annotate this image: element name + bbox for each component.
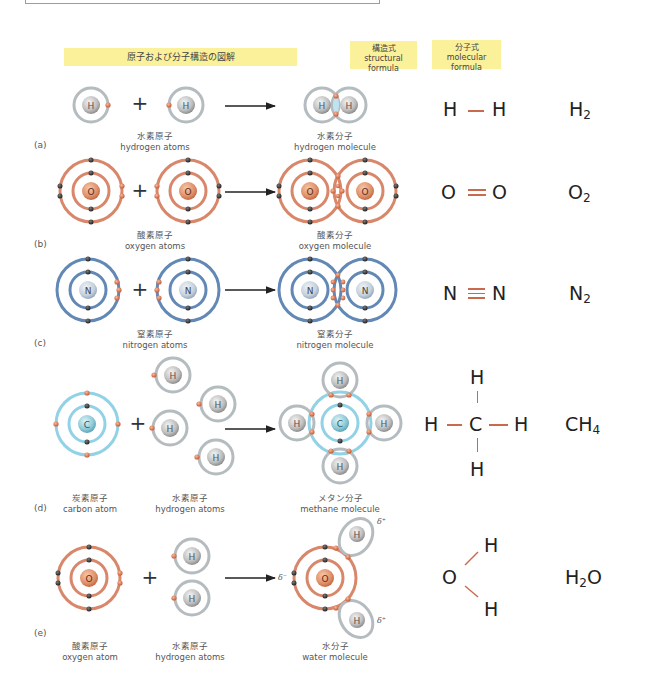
carbon-atom: C xyxy=(53,390,120,457)
hydrogen-molecule: H H xyxy=(305,88,366,122)
svg-text:N: N xyxy=(362,286,369,296)
molecular-formula-h2o: H2O xyxy=(565,566,602,590)
water-molecule: O H H xyxy=(292,512,380,644)
nitrogen-molecule: N N xyxy=(279,257,396,324)
caption-nitrogen-atoms: 窒素原子 nitrogen atoms xyxy=(100,329,210,350)
svg-text:H: H xyxy=(183,101,190,111)
methane-molecule: C H H H H xyxy=(280,363,401,483)
double-bond-line-1 xyxy=(468,189,486,191)
oxygen-atom-right: O xyxy=(154,158,221,225)
svg-text:H: H xyxy=(337,376,344,386)
svg-text:N: N xyxy=(85,286,92,296)
row-label-b: (b) xyxy=(34,239,47,249)
svg-text:O: O xyxy=(87,187,94,197)
bond-up xyxy=(477,391,479,403)
hydrogen-atoms-pair: H H xyxy=(171,539,209,615)
row-c-nitrogen: N + N N N xyxy=(57,257,396,324)
svg-text:N: N xyxy=(307,286,314,296)
row-e-water: O + H H O H H xyxy=(56,512,380,644)
svg-text:H: H xyxy=(88,101,95,111)
plus-sign: + xyxy=(132,91,149,115)
plus-sign: + xyxy=(130,411,147,435)
partial-charge-oxygen: δ⁻ xyxy=(278,573,287,582)
molecular-formula-o2: O2 xyxy=(568,181,591,205)
partial-charge-hydrogen-bottom: δ⁺ xyxy=(377,616,386,625)
triple-bond-line-3 xyxy=(468,297,485,299)
svg-text:C: C xyxy=(84,420,90,430)
svg-text:O: O xyxy=(321,574,328,584)
svg-text:H: H xyxy=(337,462,344,472)
svg-text:H: H xyxy=(215,400,222,410)
row-d-methane: C + H H H H xyxy=(53,358,401,483)
caption-oxygen-atoms: 酸素原子 oxygen atoms xyxy=(100,230,210,251)
molecular-formula-h2: H2 xyxy=(569,98,591,122)
caption-carbon-atom: 炭素原子 carbon atom xyxy=(55,493,125,514)
double-bond-line-2 xyxy=(468,194,486,196)
caption-hydrogen-atoms: 水素原子 hydrogen atoms xyxy=(100,131,210,152)
row-label-e: (e) xyxy=(34,628,47,638)
nitrogen-atom-left: N xyxy=(57,257,122,324)
svg-text:O: O xyxy=(85,574,92,584)
row-label-c: (c) xyxy=(34,338,46,348)
hydrogen-atom-right: H xyxy=(166,88,203,122)
svg-text:H: H xyxy=(167,424,174,434)
row-label-a: (a) xyxy=(34,140,47,150)
bond-left xyxy=(447,424,462,426)
water-bonds xyxy=(460,550,490,600)
triple-bond-line-1 xyxy=(468,288,485,290)
caption-oxygen-atom: 酸素原子 oxygen atom xyxy=(55,641,125,662)
hydrogen-atoms-group: H H H H xyxy=(149,358,235,474)
svg-text:O: O xyxy=(306,187,313,197)
caption-methane-molecule: メタン分子 methane molecule xyxy=(290,493,390,514)
bond-down xyxy=(477,438,479,452)
triple-bond-line-2 xyxy=(468,293,485,295)
svg-text:H: H xyxy=(381,419,388,429)
caption-oxygen-molecule: 酸素分子 oxygen molecule xyxy=(285,230,385,251)
plus-sign: + xyxy=(142,565,159,589)
svg-text:H: H xyxy=(346,101,353,111)
molecular-formula-n2: N2 xyxy=(569,282,591,306)
caption-water-molecule: 水分子 water molecule xyxy=(290,641,380,662)
svg-text:H: H xyxy=(294,419,301,429)
caption-hydrogen-atoms-e: 水素原子 hydrogen atoms xyxy=(145,641,235,662)
caption-hydrogen-atoms-d: 水素原子 hydrogen atoms xyxy=(145,493,235,514)
caption-nitrogen-molecule: 窒素分子 nitrogen molecule xyxy=(285,329,385,350)
svg-text:H: H xyxy=(354,616,361,626)
row-a-hydrogen: H + H H H xyxy=(74,88,366,122)
single-bond xyxy=(468,110,484,112)
oxygen-atom-left: O xyxy=(58,158,125,225)
svg-text:H: H xyxy=(189,594,196,604)
svg-text:H: H xyxy=(213,453,220,463)
oxygen-atom: O xyxy=(56,545,123,612)
svg-text:H: H xyxy=(170,371,177,381)
svg-text:H: H xyxy=(189,552,196,562)
row-label-d: (d) xyxy=(34,503,47,513)
svg-text:N: N xyxy=(185,286,192,296)
plus-sign: + xyxy=(132,277,149,301)
oxygen-molecule: O O xyxy=(277,158,399,225)
svg-text:H: H xyxy=(319,101,326,111)
hydrogen-atom-left: H xyxy=(74,88,111,122)
nitrogen-atom-right: N xyxy=(154,257,219,324)
plus-sign: + xyxy=(132,178,149,202)
partial-charge-hydrogen-top: δ⁺ xyxy=(377,517,386,526)
svg-text:C: C xyxy=(337,419,343,429)
svg-text:H: H xyxy=(354,530,361,540)
row-b-oxygen: O + O O O xyxy=(58,158,399,225)
bond-right xyxy=(489,424,508,426)
caption-hydrogen-molecule: 水素分子 hydrogen molecule xyxy=(285,131,385,152)
svg-text:O: O xyxy=(361,187,368,197)
molecular-formula-ch4: CH4 xyxy=(565,413,600,437)
svg-text:O: O xyxy=(184,187,191,197)
